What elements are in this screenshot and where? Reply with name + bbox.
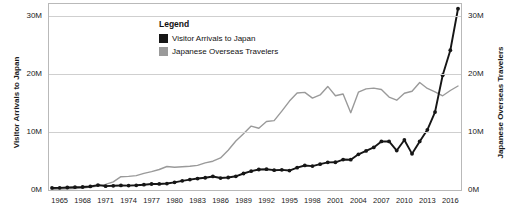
data-point-marker [58,186,62,190]
chart-container: Visitor Arrivals to Japan Japanese Overs… [0,0,512,217]
x-tick-label: 2016 [433,196,467,205]
y-axis-right-title: Japanese Overseas Travelers [496,13,505,193]
data-point-marker [150,182,154,186]
legend-item-label: Visitor Arrivals to Japan [172,34,255,43]
gridline [49,74,461,75]
data-point-marker [418,140,422,144]
data-point-marker [295,166,299,170]
data-point-marker [326,160,330,164]
data-point-marker [203,176,207,180]
data-point-marker [395,149,399,153]
data-point-marker [196,177,200,181]
data-point-marker [402,138,406,142]
y-axis-left-title: Visitor Arrivals to Japan [12,33,21,173]
data-point-marker [372,145,376,149]
data-point-marker [142,183,146,187]
data-point-marker [242,172,246,176]
data-point-marker [65,186,69,190]
y-tick-label-left: 0M [12,185,42,194]
data-point-marker [311,164,315,168]
gridline [49,16,461,17]
data-point-marker [303,164,307,168]
series-line [52,83,458,190]
data-point-marker [387,140,391,144]
legend-item[interactable]: Japanese Overseas Travelers [159,46,309,56]
y-tick-label-right: 0M [468,185,498,194]
data-point-marker [180,179,184,183]
y-tick-label-right: 20M [468,69,498,78]
data-point-marker [188,178,192,182]
data-point-marker [73,185,77,189]
y-tick-label-right: 30M [468,11,498,20]
legend-item[interactable]: Visitor Arrivals to Japan [159,33,309,43]
data-point-marker [334,160,338,164]
legend-swatch-icon [159,34,168,43]
data-point-marker [134,183,138,187]
data-point-marker [341,158,345,162]
data-point-marker [81,185,85,189]
data-point-marker [104,184,108,188]
data-point-marker [410,152,414,156]
data-point-marker [219,176,223,180]
data-point-marker [433,110,437,114]
y-tick-label-right: 10M [468,127,498,136]
data-point-marker [119,184,123,188]
data-point-marker [364,149,368,153]
gridline [49,132,461,133]
plot-area: Legend Visitor Arrivals to JapanJapanese… [48,3,462,191]
data-point-marker [318,162,322,166]
data-point-marker [349,158,353,162]
y-tick-label-left: 30M [12,11,42,20]
data-point-marker [157,182,161,186]
data-point-marker [380,140,384,144]
data-point-marker [211,175,215,179]
data-point-marker [357,152,361,156]
data-point-marker [127,184,131,188]
data-point-marker [111,184,115,188]
data-point-marker [226,176,230,180]
legend-item-label: Japanese Overseas Travelers [172,47,278,56]
data-point-marker [265,167,269,171]
data-point-marker [456,7,460,11]
y-tick-label-left: 10M [12,127,42,136]
data-point-marker [249,169,253,173]
legend-swatch-icon [159,47,168,56]
legend-items: Visitor Arrivals to JapanJapanese Overse… [159,33,309,56]
data-point-marker [272,168,276,172]
data-point-marker [50,186,54,190]
data-point-marker [288,169,292,173]
data-point-marker [257,168,261,172]
chart-legend: Legend Visitor Arrivals to JapanJapanese… [159,19,309,59]
legend-title: Legend [159,19,309,29]
data-point-marker [96,183,100,187]
data-point-marker [234,174,238,178]
data-point-marker [88,185,92,189]
data-point-marker [165,182,169,186]
data-point-marker [173,180,177,184]
data-point-marker [280,168,284,172]
y-tick-label-left: 20M [12,69,42,78]
data-point-marker [448,48,452,52]
